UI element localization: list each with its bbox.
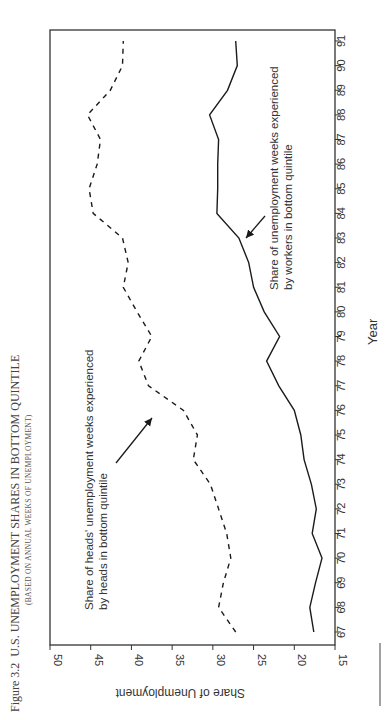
year-tick-label: 70 <box>335 552 347 564</box>
workers-series-line <box>210 41 322 632</box>
y-axis-label: Share of Unemployment <box>116 686 245 700</box>
year-tick-label: 71 <box>335 527 347 539</box>
year-tick-label: 82 <box>335 256 347 268</box>
year-tick-label: 81 <box>335 281 347 293</box>
year-tick-label: 87 <box>335 133 347 145</box>
annotation-workers-line2: by workers in bottom quintile <box>281 66 295 290</box>
year-tick-label: 90 <box>335 59 347 71</box>
share-tick-label: 40 <box>133 654 145 666</box>
year-tick-label: 76 <box>335 404 347 416</box>
annotation-workers: Share of unemployment weeks experienced … <box>267 66 295 290</box>
year-tick-label: 67 <box>335 626 347 638</box>
year-tick-label: 86 <box>335 158 347 170</box>
share-tick-label: 20 <box>296 654 308 666</box>
year-tick-label: 83 <box>335 232 347 244</box>
workers-arrow-icon <box>246 216 265 238</box>
annotation-heads: Share of heads' unemployment weeks exper… <box>82 350 110 610</box>
year-tick-label: 89 <box>335 84 347 96</box>
year-tick-label: 72 <box>335 503 347 515</box>
share-tick-label: 15 <box>337 654 349 666</box>
year-tick-label: 91 <box>335 35 347 47</box>
annotation-heads-line2: by heads in bottom quintile <box>96 350 110 610</box>
year-tick-label: 84 <box>335 207 347 219</box>
line-chart: 1520253035404550676869707172737475767778… <box>0 0 390 720</box>
year-tick-label: 68 <box>335 601 347 613</box>
share-tick-label: 30 <box>215 654 227 666</box>
year-tick-label: 74 <box>335 453 347 465</box>
heads-arrow-icon <box>116 418 152 463</box>
share-tick-label: 35 <box>174 654 186 666</box>
year-tick-label: 88 <box>335 109 347 121</box>
year-tick-label: 75 <box>335 429 347 441</box>
year-tick-label: 78 <box>335 355 347 367</box>
year-tick-label: 73 <box>335 478 347 490</box>
year-tick-label: 69 <box>335 577 347 589</box>
annotation-workers-line1: Share of unemployment weeks experienced <box>267 66 281 290</box>
year-tick-label: 80 <box>335 306 347 318</box>
year-tick-label: 77 <box>335 380 347 392</box>
x-axis-label: Year <box>365 319 380 345</box>
annotation-heads-line1: Share of heads' unemployment weeks exper… <box>82 350 96 610</box>
year-tick-label: 79 <box>335 330 347 342</box>
share-tick-label: 45 <box>93 654 105 666</box>
year-tick-label: 85 <box>335 183 347 195</box>
share-tick-label: 25 <box>256 654 268 666</box>
share-tick-label: 50 <box>52 654 64 666</box>
